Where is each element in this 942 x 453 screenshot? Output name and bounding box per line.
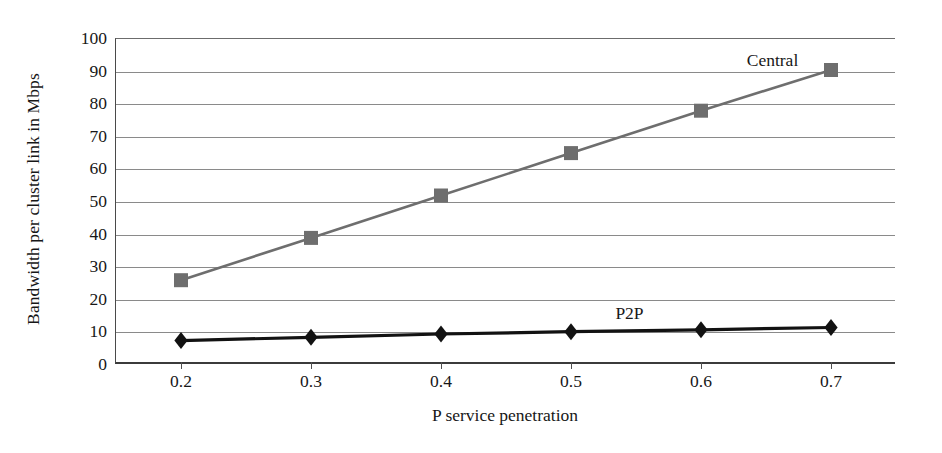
plot-area: 0102030405060708090100 0.20.30.40.50.60.… <box>115 38 895 364</box>
x-tick-label: 0.4 <box>430 373 452 391</box>
y-tick-label: 90 <box>90 63 108 81</box>
data-point-square <box>434 189 448 203</box>
data-point-square <box>824 63 838 77</box>
y-tick-label: 70 <box>90 128 108 146</box>
data-point-square <box>564 146 578 160</box>
series-label-central: Central <box>747 52 799 70</box>
x-axis-title: P service penetration <box>115 405 895 426</box>
data-point-square <box>304 231 318 245</box>
chart-figure: Bandwidth per cluster link in Mbps 01020… <box>0 0 942 453</box>
y-tick-label: 60 <box>90 161 108 179</box>
data-point-diamond <box>564 323 577 340</box>
y-tick-label: 100 <box>81 30 107 48</box>
series-label-p2p: P2P <box>615 305 643 323</box>
y-tick-label: 10 <box>90 324 108 342</box>
series-group <box>116 39 896 365</box>
y-axis-title: Bandwidth per cluster link in Mbps <box>16 36 50 362</box>
data-point-diamond <box>434 326 447 343</box>
data-point-diamond <box>174 332 187 349</box>
data-point-square <box>174 273 188 287</box>
data-point-diamond <box>824 319 837 336</box>
x-tick-label: 0.3 <box>300 373 322 391</box>
x-tick-label: 0.2 <box>170 373 192 391</box>
x-tick-label: 0.6 <box>690 373 712 391</box>
series-central <box>174 63 838 287</box>
y-tick-label: 40 <box>90 226 108 244</box>
y-tick-label: 0 <box>98 356 107 374</box>
x-tick-label: 0.7 <box>820 373 842 391</box>
y-tick-label: 50 <box>90 193 108 211</box>
y-tick-label: 20 <box>90 291 108 309</box>
data-point-diamond <box>694 321 707 338</box>
series-line <box>181 70 831 280</box>
series-p2p <box>174 319 837 349</box>
series-line <box>181 328 831 341</box>
data-point-square <box>694 104 708 118</box>
y-tick-label: 80 <box>90 95 108 113</box>
y-tick-label: 30 <box>90 258 108 276</box>
x-tick-label: 0.5 <box>560 373 582 391</box>
data-point-diamond <box>304 329 317 346</box>
